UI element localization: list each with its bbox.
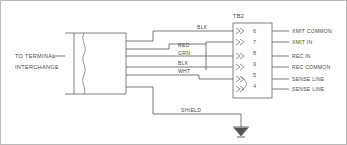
shield-wire: SHIELD: [126, 87, 241, 127]
pin-number-4: 4: [253, 83, 256, 89]
pin-number-7: 7: [253, 39, 256, 45]
pin-number-5: 5: [253, 72, 256, 78]
terminal-pin-5: 5 SENSE LINE: [236, 72, 325, 82]
terminal-pin-7: 7 XMIT IN: [236, 39, 312, 45]
cable-block: [74, 33, 126, 94]
wiring-diagram: TO TERMINAL INTERCHANGE: [0, 0, 347, 145]
signal-label-sense-line-2: SENSE LINE: [292, 86, 325, 92]
signal-label-sense-line-1: SENSE LINE: [292, 76, 325, 82]
pin-5-4-jumper: [241, 77, 246, 90]
source-bracket: [65, 33, 74, 94]
wire-label-red: RED: [178, 42, 190, 48]
signal-label-xmit-in: XMIT IN: [292, 39, 312, 45]
signal-label-rec-in: REC IN: [292, 53, 311, 59]
source-label-line1: TO TERMINAL: [15, 53, 56, 59]
pin-number-8: 8: [253, 50, 256, 56]
earth-ground-icon: [233, 127, 249, 137]
signal-label-xmit-common: XMIT COMMON: [292, 28, 332, 34]
wire-label-blk-2: BLK: [178, 60, 189, 66]
wire-blk-xmit-common: [126, 31, 233, 41]
wire-label-grn: GRN: [178, 50, 190, 56]
source-label-line2: INTERCHANGE: [15, 64, 59, 70]
terminal-pin-8: 8 REC IN: [236, 50, 311, 59]
terminal-pin-4: 4 SENSE LINE: [236, 83, 325, 92]
shield-label: SHIELD: [181, 107, 201, 113]
wire-color-labels: BLK RED GRN BLK WHT: [178, 24, 208, 74]
wire-wht-sense-line: [126, 75, 233, 79]
wire-label-blk-1: BLK: [197, 24, 208, 30]
source-label: TO TERMINAL INTERCHANGE: [15, 53, 65, 70]
terminal-block-label: TB2: [233, 13, 244, 19]
signal-label-rec-common: REC COMMON: [292, 64, 331, 70]
terminal-pin-9: 9 REC COMMON: [236, 61, 331, 70]
pin-number-9: 9: [253, 61, 256, 67]
wire-label-wht: WHT: [178, 68, 191, 74]
terminal-pin-6: 6 XMIT COMMON: [236, 28, 332, 34]
wiring-schematic-canvas: TO TERMINAL INTERCHANGE: [1, 1, 347, 145]
pin-number-6: 6: [253, 28, 256, 34]
